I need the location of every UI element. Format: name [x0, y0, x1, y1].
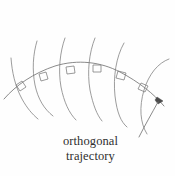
caption-line-orthogonal: orthogonal — [0, 134, 175, 149]
trajectory-tail-stroke — [139, 102, 158, 137]
orthogonal-trajectory-figure: orthogonal trajectory — [0, 0, 175, 176]
orthogonal-trajectory-group — [4, 62, 164, 137]
right-angle-4 — [93, 65, 101, 72]
orthogonal-trajectory-path — [4, 62, 164, 106]
figure-caption: orthogonal trajectory — [0, 134, 175, 164]
family-arc-4 — [89, 38, 102, 121]
family-arc-3 — [60, 38, 76, 120]
family-arc-5 — [114, 43, 127, 127]
right-angle-2 — [39, 72, 48, 81]
family-arc-2 — [33, 41, 53, 116]
curve-family-group — [11, 38, 169, 134]
caption-line-trajectory: trajectory — [0, 149, 175, 164]
right-angle-3 — [66, 66, 75, 74]
